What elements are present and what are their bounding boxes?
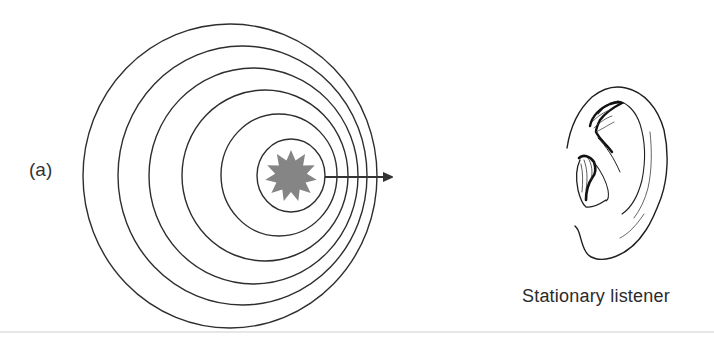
sound-source-burst-icon <box>265 150 316 201</box>
listener-caption: Stationary listener <box>522 287 670 305</box>
panel-label: (a) <box>29 160 52 179</box>
doppler-figure: (a) Stationary listener <box>0 0 714 342</box>
wavefront-ring-2 <box>118 46 367 305</box>
ear-icon <box>567 87 667 259</box>
bottom-divider <box>0 331 714 333</box>
